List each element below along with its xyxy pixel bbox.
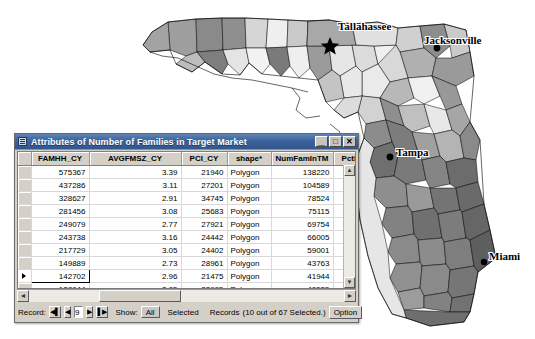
row-selector[interactable] [18,244,31,257]
cell-avgfmsz-cy[interactable]: 2.96 [89,270,181,283]
cell-famhh-cy[interactable]: 149889 [31,257,89,270]
cell-pci-cy[interactable]: 34745 [181,192,227,205]
cell-avgfmsz-cy[interactable]: 2.85 [89,283,181,290]
attribute-grid[interactable]: FAMHH_CY AVGFMSZ_CY PCI_CY shape* NumFam… [17,151,356,289]
cell-avgfmsz-cy[interactable]: 2.77 [89,218,181,231]
hscroll-thumb[interactable] [99,290,181,302]
cell-numfamintm[interactable]: 69754 [271,218,333,231]
table-row[interactable]: 2437383.1624442Polygon66005 [18,231,356,244]
cell-famhh-cy[interactable]: 217729 [31,244,89,257]
table-row[interactable]: 4372863.1127201Polygon104589 [18,179,356,192]
table-row[interactable]: 2490792.7727921Polygon69754 [18,218,356,231]
window-titlebar[interactable]: Attributes of Number of Families in Targ… [15,134,358,150]
cell-famhh-cy[interactable]: 249079 [31,218,89,231]
cell-pci-cy[interactable]: 27921 [181,218,227,231]
window-controls[interactable]: _ □ ✕ [315,136,356,147]
column-header-avgfmsz-cy[interactable]: AVGFMSZ_CY [89,152,181,166]
cell-pci-cy[interactable]: 24402 [181,244,227,257]
minimize-button[interactable]: _ [315,136,328,147]
table-row[interactable]: 3286272.9134745Polygon78524 [18,192,356,205]
table-row[interactable]: 1427022.9621475Polygon41944 [18,270,356,283]
cell-numfamintm[interactable]: 43763 [271,257,333,270]
cell-famhh-cy[interactable]: 142702 [31,270,89,283]
cell-pci-cy[interactable]: 28961 [181,257,227,270]
column-header-pctfam[interactable]: PctFam [333,152,356,166]
cell-pci-cy[interactable]: 25683 [181,205,227,218]
cell-numfamintm[interactable]: 78524 [271,192,333,205]
cell-avgfmsz-cy[interactable]: 3.39 [89,166,181,179]
cell-shape[interactable]: Polygon [227,179,271,192]
cell-avgfmsz-cy[interactable]: 2.91 [89,192,181,205]
cell-shape[interactable]: Polygon [227,205,271,218]
cell-numfamintm[interactable]: 138220 [271,166,333,179]
cell-famhh-cy[interactable]: 243738 [31,231,89,244]
cell-shape[interactable]: Polygon [227,192,271,205]
select-all-header[interactable] [18,152,31,166]
cell-famhh-cy[interactable]: 128944 [31,283,89,290]
cell-famhh-cy[interactable]: 437286 [31,179,89,192]
table-row[interactable]: 5753673.3921940Polygon138220 [18,166,356,179]
cell-pci-cy[interactable]: 21475 [181,270,227,283]
column-header-famhh-cy[interactable]: FAMHH_CY [31,152,89,166]
attribute-table[interactable]: FAMHH_CY AVGFMSZ_CY PCI_CY shape* NumFam… [18,152,356,289]
cell-shape[interactable]: Polygon [227,283,271,290]
cell-shape[interactable]: Polygon [227,244,271,257]
hscroll-track[interactable] [29,290,344,302]
header-row[interactable]: FAMHH_CY AVGFMSZ_CY PCI_CY shape* NumFam… [18,152,356,166]
maximize-button[interactable]: □ [329,136,342,147]
row-selector[interactable] [18,166,31,179]
scroll-down-button[interactable]: ▼ [344,277,355,288]
row-selector[interactable] [18,218,31,231]
table-row[interactable]: 1289442.8522985Polygon40535 [18,283,356,290]
row-selector[interactable] [18,205,31,218]
show-selected-button[interactable]: Selected [163,306,204,318]
cell-shape[interactable]: Polygon [227,270,271,283]
cell-pci-cy[interactable]: 22985 [181,283,227,290]
column-header-numfamintm[interactable]: NumFamInTM [271,152,333,166]
cell-shape[interactable]: Polygon [227,218,271,231]
previous-record-button[interactable]: ◀ [64,306,71,318]
row-selector[interactable] [18,231,31,244]
cell-avgfmsz-cy[interactable]: 2.73 [89,257,181,270]
cell-shape[interactable]: Polygon [227,257,271,270]
cell-shape[interactable]: Polygon [227,231,271,244]
row-selector[interactable] [18,270,31,283]
cell-pci-cy[interactable]: 27201 [181,179,227,192]
cell-avgfmsz-cy[interactable]: 3.08 [89,205,181,218]
cell-numfamintm[interactable]: 104589 [271,179,333,192]
cell-numfamintm[interactable]: 75115 [271,205,333,218]
show-all-button[interactable]: All [141,306,160,318]
last-record-button[interactable]: ▌▶ [96,306,108,318]
cell-numfamintm[interactable]: 41944 [271,270,333,283]
cell-shape[interactable]: Polygon [227,166,271,179]
cell-pci-cy[interactable]: 21940 [181,166,227,179]
cell-pci-cy[interactable]: 24442 [181,231,227,244]
row-selector[interactable] [18,179,31,192]
row-selector[interactable] [18,283,31,290]
first-record-button[interactable]: ◀▌ [49,306,61,318]
cell-avgfmsz-cy[interactable]: 3.16 [89,231,181,244]
cell-avgfmsz-cy[interactable]: 3.11 [89,179,181,192]
column-header-shape[interactable]: shape* [227,152,271,166]
horizontal-scrollbar[interactable]: ◄ ► [17,289,356,302]
cell-famhh-cy[interactable]: 575367 [31,166,89,179]
table-row[interactable]: 2177293.0524402Polygon59001 [18,244,356,257]
row-selector[interactable] [18,257,31,270]
column-header-pci-cy[interactable]: PCI_CY [181,152,227,166]
table-header[interactable]: FAMHH_CY AVGFMSZ_CY PCI_CY shape* NumFam… [18,152,356,166]
next-record-button[interactable]: ▶ [86,306,93,318]
record-number-input[interactable]: 9 [74,306,83,318]
cell-numfamintm[interactable]: 40535 [271,283,333,290]
cell-numfamintm[interactable]: 66005 [271,231,333,244]
cell-famhh-cy[interactable]: 281456 [31,205,89,218]
cell-numfamintm[interactable]: 59001 [271,244,333,257]
close-button[interactable]: ✕ [343,136,356,147]
cell-avgfmsz-cy[interactable]: 3.05 [89,244,181,257]
vertical-scrollbar[interactable]: ▲ ▼ [343,165,355,288]
scroll-up-button[interactable]: ▲ [344,165,355,176]
scroll-left-button[interactable]: ◄ [17,290,29,302]
row-selector[interactable] [18,192,31,205]
table-row[interactable]: 1498892.7328961Polygon43763 [18,257,356,270]
table-body[interactable]: 5753673.3921940Polygon1382204372863.1127… [18,166,356,290]
table-row[interactable]: 2814563.0825683Polygon75115 [18,205,356,218]
